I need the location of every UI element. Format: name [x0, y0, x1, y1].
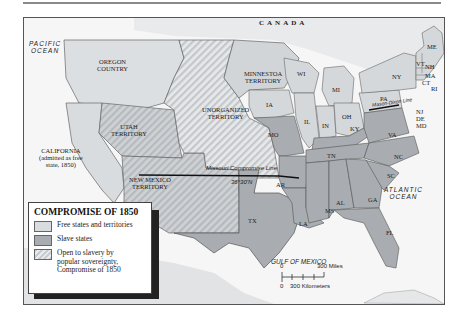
label-state-in: IN — [322, 122, 329, 129]
label-state-nc: NC — [394, 153, 403, 160]
label-state-la: LA — [299, 220, 308, 227]
scale-miles-zero: 0 — [280, 263, 283, 270]
scale-km-label: 300 Kilometers — [290, 283, 330, 290]
label-utah-line1: UTAH — [120, 123, 138, 130]
label-california-line3: state, 1850) — [46, 161, 76, 168]
label-atlantic-line1: ATLANTIC — [384, 186, 423, 193]
scale-miles-label: 300 Miles — [317, 263, 343, 270]
label-state-oh: OH — [342, 113, 351, 120]
label-state-vt: VT — [416, 60, 425, 67]
label-unorganized-line1: UNORGANIZED — [202, 106, 249, 113]
label-state-il: IL — [304, 118, 310, 125]
label-pacific-line1: PACIFIC — [29, 40, 61, 47]
label-minnesota-territory: MINNESTOA TERRITORY — [244, 70, 282, 84]
legend-swatch-free — [34, 221, 52, 232]
label-state-tn: TN — [327, 152, 336, 159]
label-state-ms: MS — [325, 207, 334, 214]
label-state-wi: WI — [297, 70, 305, 77]
label-california-line2: (admitted as free — [39, 154, 83, 161]
label-missouri-latitude: 36°30'N — [231, 179, 252, 186]
label-new-mexico-territory: NEW MEXICO TERRITORY — [129, 176, 171, 190]
legend-label-popular-sovereignty: Open to slavery by popular sovereignty, … — [57, 249, 137, 275]
label-canada: CANADA — [259, 20, 307, 28]
label-state-sc: SC — [387, 172, 395, 179]
label-state-nh: NH — [425, 63, 434, 70]
label-state-ga: GA — [368, 196, 377, 203]
legend-item-slave: Slave states — [34, 235, 146, 246]
label-new-mexico-line1: NEW MEXICO — [129, 176, 171, 183]
label-oregon-country: OREGON COUNTRY — [97, 58, 128, 72]
legend-label-free: Free states and territories — [57, 221, 133, 230]
label-state-al: AL — [336, 199, 345, 206]
label-oregon-line2: COUNTRY — [97, 65, 128, 72]
label-california-line1: CALIFORNIA — [41, 147, 80, 154]
label-state-fl: FL — [386, 229, 394, 236]
label-state-ky: KY — [350, 125, 359, 132]
top-rule — [23, 2, 441, 4]
label-oregon-line1: OREGON — [99, 58, 126, 65]
label-missouri-compromise-line: Missouri Compromise Line — [206, 165, 277, 172]
label-unorganized-territory: UNORGANIZED TERRITORY — [202, 106, 249, 120]
label-utah-territory: UTAH TERRITORY — [111, 123, 147, 137]
legend-swatch-slave — [34, 235, 52, 246]
label-state-me: ME — [427, 43, 437, 50]
label-pacific-ocean: PACIFIC OCEAN — [29, 40, 61, 54]
legend-item-popular-sovereignty: Open to slavery by popular sovereignty, … — [34, 249, 146, 275]
legend: COMPROMISE OF 1850 Free states and terri… — [28, 202, 152, 294]
label-state-ct: CT — [422, 79, 430, 86]
label-atlantic-ocean: ATLANTIC OCEAN — [384, 186, 423, 200]
label-minnesota-line2: TERRITORY — [245, 77, 281, 84]
legend-title: COMPROMISE OF 1850 — [34, 207, 146, 217]
label-atlantic-line2: OCEAN — [389, 193, 417, 200]
label-utah-line2: TERRITORY — [111, 130, 147, 137]
label-state-tx: TX — [248, 217, 257, 224]
label-minnesota-line1: MINNESTOA — [244, 70, 282, 77]
scale-km-zero: 0 — [280, 283, 283, 290]
label-state-md: MD — [416, 122, 426, 129]
label-state-pa: PA — [380, 95, 388, 102]
label-unorganized-line2: TERRITORY — [208, 113, 244, 120]
label-state-va: VA — [388, 131, 397, 138]
label-state-ny: NY — [392, 73, 401, 80]
label-california: CALIFORNIA (admitted as free state, 1850… — [39, 147, 83, 168]
label-new-mexico-line2: TERRITORY — [132, 183, 168, 190]
legend-swatch-popular-sovereignty — [34, 249, 52, 260]
label-state-ri: RI — [431, 85, 438, 92]
legend-item-free: Free states and territories — [34, 221, 146, 232]
legend-label-slave: Slave states — [57, 235, 92, 244]
label-state-ia: IA — [266, 101, 273, 108]
label-state-ar: AR — [276, 181, 285, 188]
label-state-mo: MO — [268, 131, 278, 138]
label-state-mi: MI — [332, 86, 340, 93]
label-pacific-line2: OCEAN — [31, 47, 59, 54]
